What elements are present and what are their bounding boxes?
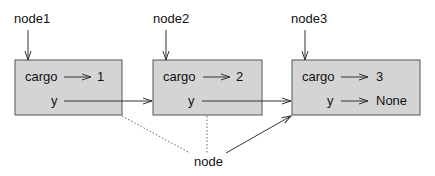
node1-cargo-label: cargo — [25, 69, 58, 84]
node-history-dotted-1 — [122, 116, 190, 153]
node2-next-label: y — [188, 93, 195, 108]
node-current-arrow — [226, 116, 291, 153]
node3-next-value: None — [376, 93, 407, 108]
node3-cargo-value: 3 — [376, 69, 383, 84]
node1-next-label: y — [51, 93, 58, 108]
linked-list-diagram: node1 node2 node3 cargo 1 y cargo 2 y ca… — [0, 0, 435, 176]
node3-cargo-label: cargo — [302, 69, 335, 84]
node2-label: node2 — [153, 11, 189, 26]
node1-label: node1 — [14, 11, 50, 26]
node-pointer-label: node — [194, 154, 223, 169]
node1-cargo-value: 1 — [97, 69, 104, 84]
node2-cargo-label: cargo — [163, 69, 196, 84]
node2-cargo-value: 2 — [236, 69, 243, 84]
node3-label: node3 — [291, 11, 327, 26]
node3-next-label: y — [327, 93, 334, 108]
